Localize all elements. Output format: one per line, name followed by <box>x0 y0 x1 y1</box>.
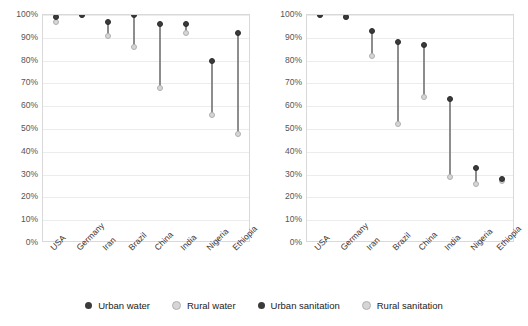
gridline <box>43 106 249 107</box>
legend-item[interactable]: Rural sanitation <box>362 300 443 311</box>
series-connector <box>159 24 160 88</box>
gridline <box>307 175 513 176</box>
y-tick-label: 10% <box>285 215 302 224</box>
gridline <box>307 220 513 221</box>
data-point <box>343 14 349 20</box>
water-x-axis-labels: USAGermanyIranBrazilChinaIndiaNigeriaEth… <box>42 244 250 288</box>
gridline <box>43 83 249 84</box>
y-tick-label: 90% <box>285 33 302 42</box>
data-point <box>395 121 401 127</box>
gridline <box>43 61 249 62</box>
sanitation-y-axis-labels: 100%90%80%70%60%50%40%30%20%10%0% <box>264 14 302 242</box>
data-point <box>105 19 111 25</box>
y-tick-label: 80% <box>285 56 302 65</box>
y-tick-label: 60% <box>21 101 38 110</box>
data-point <box>235 30 241 36</box>
data-point <box>395 39 401 45</box>
data-point <box>447 174 453 180</box>
y-tick-label: 50% <box>285 124 302 133</box>
data-point <box>473 181 479 187</box>
data-point <box>157 85 163 91</box>
data-point <box>105 33 111 39</box>
data-point <box>157 21 163 27</box>
data-point <box>131 44 137 50</box>
legend-item-label: Rural water <box>187 300 236 311</box>
data-point <box>79 14 85 18</box>
legend-dot-icon <box>258 302 265 309</box>
legend-item-label: Urban sanitation <box>271 300 340 311</box>
y-tick-label: 50% <box>21 124 38 133</box>
data-point <box>131 14 137 18</box>
y-tick-label: 60% <box>285 101 302 110</box>
y-tick-label: 70% <box>285 78 302 87</box>
legend-dot-icon <box>362 301 371 310</box>
y-tick-label: 70% <box>21 78 38 87</box>
legend-item[interactable]: Rural water <box>172 300 236 311</box>
chart-legend: Urban waterRural waterUrban sanitationRu… <box>0 290 528 320</box>
gridline <box>307 197 513 198</box>
legend-item-label: Urban water <box>98 300 150 311</box>
data-point <box>235 131 241 137</box>
gridline <box>307 152 513 153</box>
gridline <box>43 220 249 221</box>
chart-panels: 100%90%80%70%60%50%40%30%20%10%0% USAGer… <box>0 0 528 288</box>
data-point <box>209 112 215 118</box>
water-chart-panel: 100%90%80%70%60%50%40%30%20%10%0% USAGer… <box>0 0 264 288</box>
legend-item[interactable]: Urban water <box>85 300 150 311</box>
gridline <box>43 15 249 16</box>
legend-dot-icon <box>172 301 181 310</box>
data-point <box>369 53 375 59</box>
gridline <box>307 15 513 16</box>
y-tick-label: 20% <box>285 192 302 201</box>
series-connector <box>133 15 134 47</box>
data-point <box>473 165 479 171</box>
y-tick-label: 0% <box>26 238 38 247</box>
data-point <box>421 94 427 100</box>
legend-item-label: Rural sanitation <box>377 300 443 311</box>
series-connector <box>397 42 398 124</box>
sanitation-x-axis-labels: USAGermanyIranBrazilChinaIndiaNigeriaEth… <box>306 244 514 288</box>
y-tick-label: 0% <box>290 238 302 247</box>
legend-dot-icon <box>85 302 92 309</box>
y-tick-label: 90% <box>21 33 38 42</box>
y-tick-label: 80% <box>21 56 38 65</box>
y-tick-label: 10% <box>21 215 38 224</box>
y-tick-label: 20% <box>21 192 38 201</box>
data-point <box>183 30 189 36</box>
water-plot-area <box>42 14 250 242</box>
sanitation-plot-area <box>306 14 514 242</box>
gridline <box>307 83 513 84</box>
data-point <box>183 21 189 27</box>
data-point <box>317 14 323 18</box>
series-connector <box>237 33 238 133</box>
data-point <box>447 96 453 102</box>
gridline <box>307 129 513 130</box>
data-point <box>421 42 427 48</box>
chart-page: 100%90%80%70%60%50%40%30%20%10%0% USAGer… <box>0 0 528 326</box>
y-tick-label: 100% <box>16 10 38 19</box>
sanitation-chart-panel: 100%90%80%70%60%50%40%30%20%10%0% USAGer… <box>264 0 528 288</box>
legend-item[interactable]: Urban sanitation <box>258 300 340 311</box>
y-tick-label: 30% <box>21 170 38 179</box>
series-connector <box>211 61 212 116</box>
water-y-axis-labels: 100%90%80%70%60%50%40%30%20%10%0% <box>0 14 38 242</box>
series-connector <box>423 45 424 97</box>
y-tick-label: 30% <box>285 170 302 179</box>
gridline <box>43 129 249 130</box>
data-point <box>369 28 375 34</box>
data-point <box>209 58 215 64</box>
y-tick-label: 40% <box>285 147 302 156</box>
y-tick-label: 100% <box>280 10 302 19</box>
gridline <box>307 38 513 39</box>
gridline <box>43 197 249 198</box>
series-connector <box>449 99 450 177</box>
gridline <box>43 38 249 39</box>
gridline <box>307 106 513 107</box>
y-tick-label: 40% <box>21 147 38 156</box>
gridline <box>307 61 513 62</box>
gridline <box>43 175 249 176</box>
gridline <box>43 152 249 153</box>
